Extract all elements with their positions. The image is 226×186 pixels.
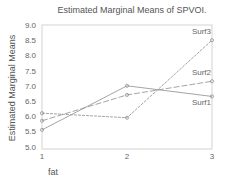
y-tick-label: 7.5 — [25, 67, 37, 76]
y-tick-label: 8.5 — [25, 36, 37, 45]
y-tick-label: 7.0 — [25, 82, 37, 91]
x-axis-label: fat — [48, 167, 59, 177]
x-tick-label: 2 — [125, 152, 130, 161]
x-axis-ticks: 123 — [40, 152, 215, 161]
series-line-surf1 — [42, 86, 212, 130]
chart: Estimated Marginal Means of SPVOI. 9.08.… — [0, 0, 226, 186]
plot-area — [42, 25, 212, 149]
chart-title: Estimated Marginal Means of SPVOI. — [57, 5, 206, 15]
series-line-surf3 — [42, 40, 212, 118]
y-tick-label: 5.0 — [25, 143, 37, 152]
y-tick-label: 6.5 — [25, 97, 37, 106]
x-tick-label: 1 — [40, 152, 45, 161]
y-tick-label: 5.5 — [25, 127, 37, 136]
y-tick-label: 6.0 — [25, 112, 37, 121]
series-label-surf1: Surf1 — [192, 98, 212, 107]
x-tick-label: 3 — [210, 152, 215, 161]
y-tick-label: 9.0 — [25, 21, 37, 30]
y-axis-ticks: 9.08.58.07.57.06.56.05.55.0 — [25, 21, 37, 152]
series-label-surf2: Surf2 — [192, 68, 212, 77]
series-lines: Surf1Surf2Surf3 — [40, 27, 213, 131]
y-tick-label: 8.0 — [25, 51, 37, 60]
series-label-surf3: Surf3 — [192, 27, 212, 36]
y-axis-label: Estimated Marginal Means — [7, 34, 17, 141]
